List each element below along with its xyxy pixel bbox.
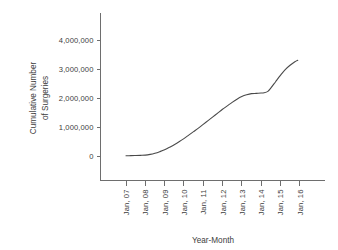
- x-tick-label: Jan, 07: [122, 190, 131, 216]
- chart-figure: 01,000,0002,000,0003,000,0004,000,000 Ja…: [0, 0, 338, 250]
- plot-area: [126, 60, 298, 155]
- y-tick-label: 4,000,000: [59, 36, 94, 45]
- y-axis-group: 01,000,0002,000,0003,000,0004,000,000: [59, 13, 101, 181]
- series-line-cumulative-surgeries: [126, 60, 298, 155]
- y-axis-title-line2: of Surgeries: [41, 76, 50, 120]
- x-tick-label: Jan, 11: [199, 190, 208, 215]
- x-tick-label: Jan, 16: [296, 190, 305, 216]
- y-axis-title: Cumulative Number of Surgeries: [29, 62, 50, 135]
- y-tick-label: 2,000,000: [59, 94, 94, 103]
- x-axis-title: Year-Month: [192, 236, 234, 245]
- x-axis-tick-labels: Jan, 07Jan, 08Jan, 09Jan, 10Jan, 11Jan, …: [122, 190, 305, 216]
- y-axis-tick-labels: 01,000,0002,000,0003,000,0004,000,000: [59, 36, 94, 161]
- y-axis-title-line1: Cumulative Number: [29, 62, 38, 135]
- y-tick-label: 1,000,000: [59, 123, 94, 132]
- x-tick-label: Jan, 13: [238, 190, 247, 216]
- y-axis-ticks: [97, 40, 101, 156]
- x-axis-group: Jan, 07Jan, 08Jan, 09Jan, 10Jan, 11Jan, …: [100, 181, 325, 216]
- line-chart: 01,000,0002,000,0003,000,0004,000,000 Ja…: [0, 0, 338, 250]
- x-tick-label: Jan, 15: [276, 190, 285, 216]
- x-tick-label: Jan, 09: [161, 190, 170, 216]
- y-tick-label: 3,000,000: [59, 65, 94, 74]
- x-tick-label: Jan, 14: [257, 190, 266, 216]
- x-axis-ticks: [126, 181, 300, 186]
- x-tick-label: Jan, 12: [219, 190, 228, 216]
- y-tick-label: 0: [89, 152, 93, 161]
- x-tick-label: Jan, 08: [141, 190, 150, 216]
- x-tick-label: Jan, 10: [180, 190, 189, 216]
